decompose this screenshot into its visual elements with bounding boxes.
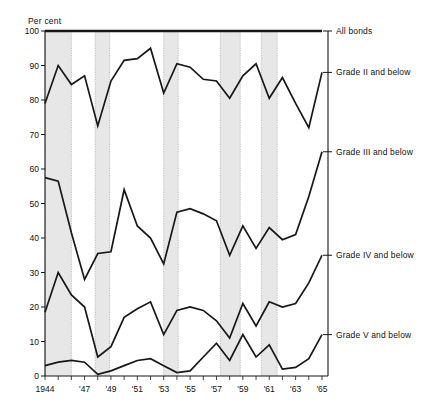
series-line [45, 335, 322, 375]
y-axis-tick-label: 90 [30, 61, 40, 71]
x-axis-tick-label: 1944 [36, 384, 55, 394]
x-axis-tick-label: '59 [237, 384, 248, 394]
recession-band [164, 31, 179, 376]
x-axis-tick-label: '53 [158, 384, 169, 394]
series-label: All bonds [336, 26, 372, 36]
series-line [45, 152, 322, 280]
y-axis-tick-label: 100 [25, 26, 39, 36]
series-label: Grade V and below [336, 330, 412, 340]
recession-band [220, 31, 240, 376]
y-axis-tick-label: 20 [30, 302, 40, 312]
x-axis-tick-label: '65 [316, 384, 327, 394]
x-axis-tick-label: '61 [264, 384, 275, 394]
y-tick-labels-group: 0102030405060708090100 [25, 26, 39, 381]
y-axis-tick-label: 30 [30, 268, 40, 278]
series-label: Grade II and below [336, 67, 411, 77]
x-axis-tick-label: '57 [211, 384, 222, 394]
chart-canvas: 0102030405060708090100 1944'47'49'51'53'… [0, 0, 435, 417]
x-axis-tick-label: '49 [105, 384, 116, 394]
x-axis-tick-label: '63 [290, 384, 301, 394]
y-axis-tick-label: 10 [30, 337, 40, 347]
y-axis-tick-label: 40 [30, 233, 40, 243]
y-axis-unit-label: Per cent [28, 16, 62, 26]
recession-band [95, 31, 110, 376]
y-axis-tick-label: 60 [30, 164, 40, 174]
series-paths-group [45, 31, 322, 374]
series-line [45, 255, 322, 357]
bond-quality-line-chart: 0102030405060708090100 1944'47'49'51'53'… [0, 0, 435, 417]
y-axis-tick-label: 70 [30, 130, 40, 140]
y-axis-tick-label: 80 [30, 95, 40, 105]
recession-band [45, 31, 71, 376]
series-labels-group: All bondsGrade II and belowGrade III and… [323, 26, 415, 340]
series-line [45, 48, 322, 127]
x-axis-tick-label: '55 [185, 384, 196, 394]
x-tick-labels-group: 1944'47'49'51'53'55'57'59'61'63'65 [36, 384, 328, 394]
x-axis-tick-label: '51 [132, 384, 143, 394]
series-label: Grade III and below [336, 147, 414, 157]
y-axis-tick-label: 50 [30, 199, 40, 209]
series-label: Grade IV and below [336, 250, 415, 260]
x-axis-tick-label: '47 [79, 384, 90, 394]
y-axis-tick-label: 0 [34, 371, 39, 381]
